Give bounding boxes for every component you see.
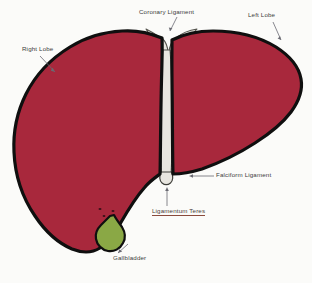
- liver-marking-1: [99, 208, 102, 210]
- left-lobe-shape: [172, 31, 302, 174]
- liver-diagram: Coronary Ligament Left Lobe Right Lobe F…: [0, 0, 312, 283]
- label-falciform-ligament: Falciform Ligament: [216, 172, 271, 178]
- liver-marking-3: [103, 215, 106, 217]
- liver-illustration: [0, 0, 312, 283]
- label-coronary-ligament: Coronary Ligament: [139, 9, 194, 15]
- leader-arrow-falciform: [189, 174, 193, 178]
- leader-arrow-ligamentum-teres: [165, 187, 169, 191]
- ligamentum-teres-shape: [160, 172, 173, 185]
- label-ligamentum-teres: Ligamentum Teres: [152, 208, 205, 216]
- right-lobe-shape: [14, 31, 162, 252]
- label-left-lobe: Left Lobe: [248, 12, 275, 18]
- label-gallbladder: Gallbladder: [113, 255, 146, 261]
- liver-marking-2: [112, 210, 115, 212]
- label-right-lobe: Right Lobe: [22, 46, 53, 52]
